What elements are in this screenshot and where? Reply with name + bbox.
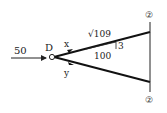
member-x-label: x: [64, 39, 69, 49]
slope-triangle: [86, 42, 116, 49]
member-y-label: y: [63, 68, 70, 78]
slope-run: 100: [94, 51, 111, 61]
load-value: 50: [14, 45, 27, 56]
node-d: [49, 54, 54, 59]
truss-diagram: 50 D x y √109 3 100 ② ②: [0, 0, 167, 113]
support-top: ②: [145, 10, 153, 20]
support-bottom: ②: [145, 95, 153, 105]
slope-hyp: √109: [88, 29, 111, 39]
slope-rise: 3: [118, 41, 124, 51]
node-label: D: [45, 42, 53, 53]
